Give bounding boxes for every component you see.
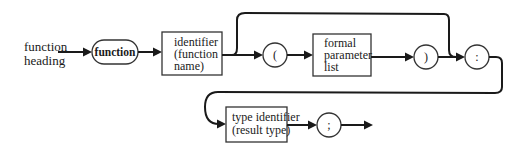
- type-identifier-line-1: type identifier: [232, 110, 300, 124]
- semicolon-text: ;: [327, 118, 330, 132]
- close-paren-text: ): [424, 50, 428, 64]
- params-line-3: list: [324, 60, 339, 74]
- arrowhead-icon: [83, 48, 92, 57]
- diagram-label-line-2: heading: [24, 53, 66, 68]
- open-paren-text: (: [273, 48, 277, 62]
- arrowhead-icon: [254, 51, 263, 60]
- colon-text: :: [475, 50, 478, 64]
- syntax-diagram-function-heading: function heading function identifier (fu…: [0, 0, 529, 150]
- arrowhead-icon: [217, 120, 226, 129]
- type-identifier-line-2: (result type): [232, 123, 290, 137]
- arrowhead-icon: [304, 51, 313, 60]
- arrowhead-icon: [364, 121, 373, 130]
- arrowhead-icon: [153, 48, 162, 57]
- arrowhead-icon: [405, 53, 414, 62]
- arrowhead-icon: [456, 53, 465, 62]
- terminal-function-text: function: [95, 46, 137, 58]
- identifier-line-3: name): [174, 59, 204, 73]
- arrowhead-icon: [308, 121, 317, 130]
